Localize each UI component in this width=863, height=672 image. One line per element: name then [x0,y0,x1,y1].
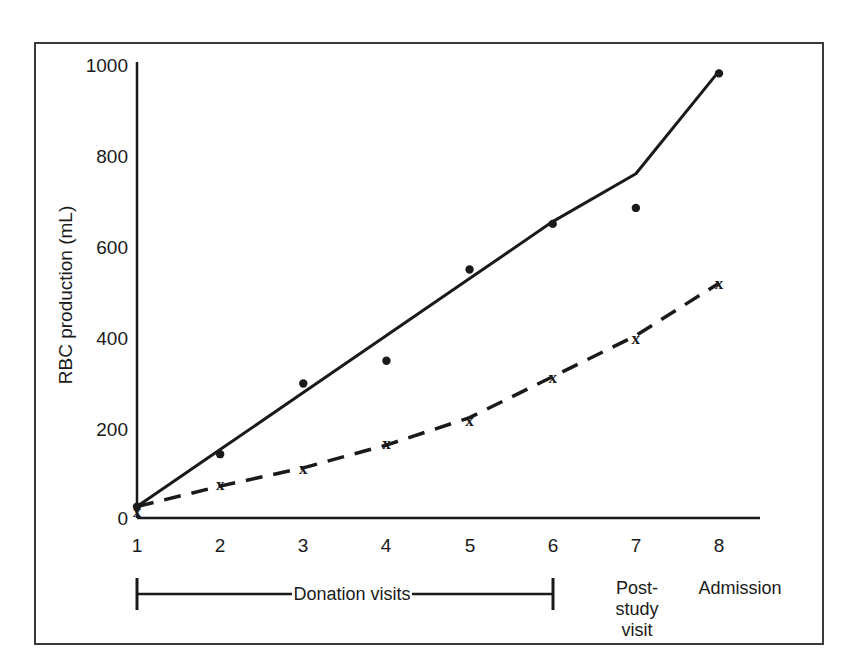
dashed-series-point: x [465,411,474,430]
post-study-visit-label-line2: study [615,599,658,619]
figure-root: 1000 800 600 400 200 0 RBC production (m… [0,0,863,672]
solid-series-point [299,379,307,387]
chart-canvas: 1000 800 600 400 200 0 RBC production (m… [0,0,863,672]
x-tick-label-3: 3 [298,535,309,556]
post-study-visit-label-line3: visit [622,620,653,640]
dashed-series-point: x [216,475,225,494]
dashed-series-point: x [299,459,308,478]
post-study-visit-label-line1: Post- [616,578,658,598]
dashed-series-point: x [715,274,724,293]
y-tick-label-200: 200 [96,419,128,440]
y-tick-label-1000: 1000 [86,55,128,76]
donation-visits-label: Donation visits [293,584,410,604]
x-tick-label-8: 8 [714,535,725,556]
dashed-series-point: x [632,329,641,348]
x-tick-label-4: 4 [381,535,392,556]
solid-series-line [137,71,719,506]
solid-series-point [715,69,723,77]
admission-label: Admission [698,578,781,598]
solid-series-point [216,450,224,458]
solid-series-point [549,220,557,228]
dashed-series-line [137,283,719,506]
y-tick-label-600: 600 [96,237,128,258]
x-tick-label-2: 2 [215,535,226,556]
solid-series-point [632,204,640,212]
x-tick-label-1: 1 [132,535,143,556]
x-tick-label-5: 5 [465,535,476,556]
dashed-series-point: x [548,368,557,387]
dashed-series-point: x [133,502,142,521]
y-axis-title: RBC production (mL) [55,206,76,384]
y-tick-label-0: 0 [117,508,128,529]
solid-series-point [382,356,390,364]
y-tick-label-800: 800 [96,146,128,167]
solid-series-markers [133,69,723,511]
x-tick-label-7: 7 [631,535,642,556]
dashed-series-markers: xxxxxxxx [133,274,724,521]
y-tick-label-400: 400 [96,328,128,349]
solid-series-point [465,265,473,273]
dashed-series-point: x [382,434,391,453]
x-tick-label-6: 6 [548,535,559,556]
